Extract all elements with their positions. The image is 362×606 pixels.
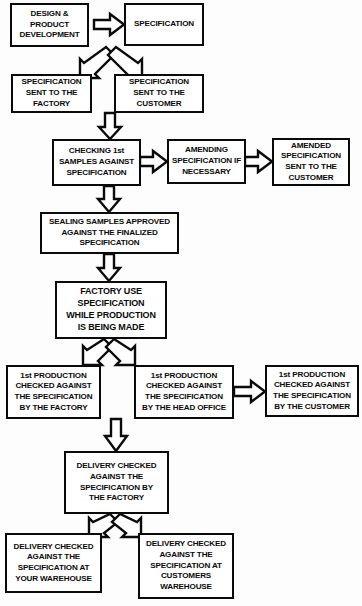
- node-factory-use-specification[interactable]: FACTORY USE SPECIFICATION WHILE PRODUCTI…: [55, 281, 167, 339]
- arrow-sent-to-checking: [99, 113, 121, 139]
- node-sealing-samples-approved[interactable]: SEALING SAMPLES APPROVED AGAINST THE FIN…: [40, 212, 179, 254]
- node-checking-first-samples[interactable]: CHECKING 1st SAMPLES AGAINST SPECIFICATI…: [52, 139, 141, 186]
- node-specification-sent-customer[interactable]: SPECIFICATION SENT TO THE CUSTOMER: [114, 74, 204, 113]
- arrow-production-to-delivery: [105, 419, 127, 451]
- arrow-head-office-to-customer: [234, 381, 265, 402]
- node-first-production-head-office[interactable]: 1st PRODUCTION CHECKED AGAINST THE SPECI…: [134, 365, 234, 419]
- arrow-delivery-to-customers-warehouse: [112, 514, 141, 537]
- node-specification-sent-factory[interactable]: SPECIFICATION SENT TO THE FACTORY: [11, 74, 92, 113]
- node-delivery-checked-customers-warehouse[interactable]: DELIVERY CHECKED AGAINST THE SPECIFICATI…: [138, 533, 234, 599]
- node-delivery-checked-your-warehouse[interactable]: DELIVERY CHECKED AGAINST THE SPECIFICATI…: [5, 533, 102, 593]
- node-design-product-development[interactable]: DESIGN & PRODUCT DEVELOPMENT: [10, 3, 89, 47]
- node-first-production-factory[interactable]: 1st PRODUCTION CHECKED AGAINST THE SPECI…: [6, 365, 101, 419]
- flowchart-canvas: DESIGN & PRODUCT DEVELOPMENT SPECIFICATI…: [0, 0, 362, 606]
- arrow-factory-use-to-production-head-office: [106, 339, 135, 365]
- arrow-sealing-to-factory-use: [98, 254, 120, 281]
- node-amending-specification[interactable]: AMENDING SPECIFICATION IF NECESSARY: [167, 139, 246, 184]
- arrow-factory-use-to-production-factory: [83, 339, 112, 365]
- arrow-checking-to-amending: [140, 151, 167, 172]
- node-first-production-customer[interactable]: 1st PRODUCTION CHECKED AGAINST THE SPECI…: [265, 365, 359, 417]
- arrow-checking-to-sealing: [98, 186, 120, 212]
- arrow-amending-to-amended: [245, 151, 272, 172]
- arrow-design-to-specification: [94, 14, 124, 35]
- node-specification[interactable]: SPECIFICATION: [124, 3, 204, 46]
- node-delivery-checked-factory[interactable]: DELIVERY CHECKED AGAINST THE SPECIFICATI…: [64, 451, 169, 514]
- node-amended-specification-sent-customer[interactable]: AMENDED SPECIFICATION SENT TO THE CUSTOM…: [272, 138, 350, 186]
